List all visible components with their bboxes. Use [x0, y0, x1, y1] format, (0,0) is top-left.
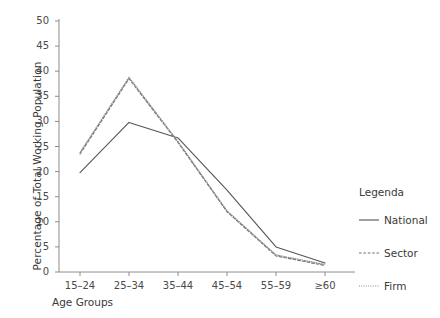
- series-line-sector: [80, 79, 325, 266]
- series-line-firm: [80, 77, 325, 264]
- data-series: [80, 77, 325, 265]
- legend-line-dotted-icon: [359, 281, 379, 291]
- legend-label-sector: Sector: [384, 247, 418, 259]
- chart-figure: Percentage of Total Working Population A…: [0, 0, 440, 318]
- legend-item-sector[interactable]: Sector: [359, 245, 439, 260]
- legend-title: Legenda: [359, 186, 439, 198]
- axes: [55, 19, 355, 276]
- legend-line-dashed-icon: [359, 248, 379, 258]
- legend-label-national: National: [384, 214, 428, 226]
- legend: Legenda National Sector F: [359, 186, 439, 311]
- legend-item-firm[interactable]: Firm: [359, 278, 439, 293]
- legend-label-firm: Firm: [384, 280, 407, 292]
- legend-line-solid-icon: [359, 215, 379, 225]
- legend-item-national[interactable]: National: [359, 212, 439, 227]
- series-line-national: [80, 122, 325, 263]
